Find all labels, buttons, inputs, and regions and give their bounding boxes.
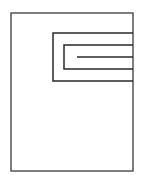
diagram-canvas [0,0,145,183]
nested-bracket-diagram [0,0,145,183]
outer-frame [11,13,133,171]
